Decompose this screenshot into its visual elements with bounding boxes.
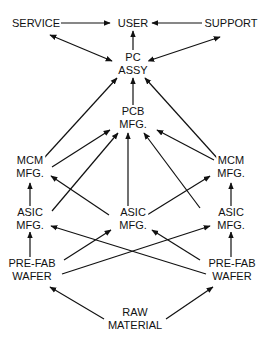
arrow [166,287,213,319]
node-user: USER [117,17,150,30]
node-label-line-2: MFG. [217,219,245,232]
node-asic-mfg-center: ASIC MFG. [118,206,148,232]
node-label-line-2: WAFER [8,270,55,283]
arrow [152,230,200,260]
arrow [44,78,117,158]
node-label: SERVICE [12,17,60,30]
bidirectional-arrow [50,35,112,61]
node-label-line-2: MFG. [217,167,245,180]
node-mcm-mfg-left: MCM MFG. [15,154,45,180]
arrow [144,133,200,208]
arrow [50,287,104,319]
node-label-line-1: ASIC [16,206,44,219]
arrow [51,226,206,274]
node-label-line-1: RAW [108,306,162,319]
node-label-line-2: MATERIAL [108,319,162,332]
arrow [52,130,110,167]
arrow [147,176,210,215]
node-label-line-2: MFG. [119,118,147,131]
node-pc-assy: PC ASSY [117,51,148,77]
node-label-line-1: PRE-FAB [208,257,255,270]
node-label-line-1: PCB [119,105,147,118]
node-label-line-1: MCM [217,154,245,167]
node-label-line-2: WAFER [208,270,255,283]
node-label-line-1: PC [118,51,147,64]
node-label: SUPPORT [205,17,258,30]
node-prefab-wafer-right: PRE-FAB WAFER [207,257,256,283]
node-label: USER [118,17,149,30]
arrow [62,226,210,274]
node-label-line-1: ASIC [217,206,245,219]
node-label-line-1: ASIC [119,206,147,219]
node-raw-material: RAW MATERIAL [107,306,163,332]
node-label-line-1: PRE-FAB [8,257,55,270]
node-label-line-2: ASSY [118,64,147,77]
node-asic-mfg-right: ASIC MFG. [216,206,246,232]
arrow [145,78,218,159]
node-label-line-2: MFG. [16,167,44,180]
node-mcm-mfg-right: MCM MFG. [216,154,246,180]
arrow [51,176,109,215]
node-asic-mfg-left: ASIC MFG. [15,206,45,232]
node-support: SUPPORT [204,17,259,30]
node-label-line-2: MFG. [119,219,147,232]
node-prefab-wafer-left: PRE-FAB WAFER [7,257,56,283]
node-pcb-mfg: PCB MFG. [118,105,148,131]
bidirectional-arrow [148,37,220,61]
node-label-line-1: MCM [16,154,44,167]
arrow [64,230,111,260]
node-label-line-2: MFG. [16,219,44,232]
node-service: SERVICE [11,17,61,30]
